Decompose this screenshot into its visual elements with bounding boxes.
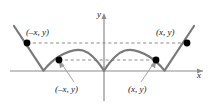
- leader-lower-left: [62, 64, 75, 83]
- point-inner-right: [153, 57, 160, 64]
- label-point-outer-right: (x, y): [156, 28, 174, 37]
- x-axis-label: x: [197, 71, 201, 80]
- x-axis: [10, 68, 203, 73]
- graph-plot: [0, 0, 214, 107]
- label-point-inner-left: (–x, y): [55, 85, 78, 94]
- math-figure-canvas: (–x, y) (x, y) (–x, y) (x, y) y x: [0, 0, 214, 107]
- y-axis: [102, 13, 107, 101]
- point-outer-left: [24, 40, 31, 47]
- dashed-guides: [27, 43, 187, 60]
- point-inner-left: [56, 57, 63, 64]
- leader-lower-right: [141, 64, 154, 83]
- label-point-inner-right: (x, y): [128, 85, 146, 94]
- y-axis-arrow: [102, 13, 107, 19]
- point-outer-right: [184, 40, 191, 47]
- y-axis-label: y: [97, 10, 101, 19]
- label-point-outer-left: (–x, y): [26, 28, 49, 37]
